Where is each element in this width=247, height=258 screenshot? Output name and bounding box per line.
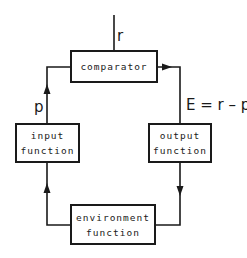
arrow-right-icon — [162, 64, 172, 71]
arrow-up-icon-2 — [44, 183, 51, 193]
reference-label: r — [117, 27, 123, 45]
environment-label-line2: function — [86, 225, 140, 240]
comparator-label: comparator — [80, 59, 147, 74]
arrow-down-icon — [177, 186, 184, 196]
perception-label: p — [34, 98, 44, 116]
environment-function-box: environment function — [70, 204, 156, 245]
arrow-up-icon — [44, 84, 51, 94]
error-label: E = r – p — [186, 96, 247, 114]
input-label-line1: input — [31, 128, 65, 143]
input-function-box: input function — [15, 123, 80, 163]
output-function-box: output function — [148, 123, 212, 163]
output-label-line1: output — [160, 128, 200, 143]
output-label-line2: function — [153, 143, 207, 158]
environment-label-line1: environment — [76, 210, 150, 225]
comparator-box: comparator — [70, 50, 158, 83]
input-label-line2: function — [21, 143, 75, 158]
